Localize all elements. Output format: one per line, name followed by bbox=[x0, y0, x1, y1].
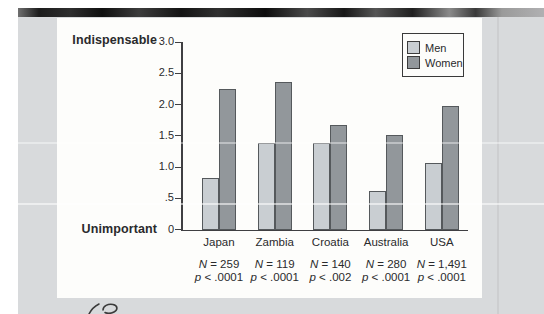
bar-men bbox=[425, 163, 442, 230]
bar-men bbox=[258, 143, 275, 230]
legend-item: Women bbox=[407, 56, 459, 69]
legend: MenWomen bbox=[402, 33, 464, 77]
bar-women bbox=[330, 125, 347, 229]
bar-men bbox=[313, 143, 330, 230]
y-tick-mark bbox=[175, 229, 181, 230]
x-axis-line bbox=[181, 230, 468, 232]
y-tick-mark bbox=[175, 42, 181, 43]
y-tick-label: 1.0 bbox=[57, 160, 174, 172]
y-tick-mark bbox=[175, 198, 181, 199]
legend-label: Women bbox=[425, 57, 463, 69]
legend-label: Men bbox=[425, 42, 446, 54]
y-tick-mark bbox=[175, 104, 181, 105]
bar-women bbox=[442, 106, 459, 229]
y-tick-label: 2.0 bbox=[57, 98, 174, 110]
handwritten-mark bbox=[84, 303, 126, 314]
legend-swatch bbox=[407, 41, 420, 54]
n-annotation: N = 1,491 bbox=[400, 258, 484, 270]
y-tick-label: .5 bbox=[57, 191, 174, 203]
y-tick-mark bbox=[175, 135, 181, 136]
bar-men bbox=[369, 191, 386, 229]
y-axis-line bbox=[181, 42, 183, 230]
y-tick-mark bbox=[175, 167, 181, 168]
bar-women bbox=[386, 135, 403, 230]
p-annotation: p < .0001 bbox=[400, 271, 484, 283]
y-tick-label: 3.0 bbox=[57, 35, 174, 47]
bar-women bbox=[275, 82, 292, 230]
legend-swatch bbox=[407, 56, 420, 69]
bar-men bbox=[202, 178, 219, 230]
legend-item: Men bbox=[407, 41, 459, 54]
figure-panel: Indispensable Unimportant MenWomen 3.02.… bbox=[57, 18, 482, 298]
y-tick-label: 2.5 bbox=[57, 66, 174, 78]
y-tick-label: 1.5 bbox=[57, 129, 174, 141]
y-tick-label: 0 bbox=[57, 223, 174, 235]
y-tick-mark bbox=[175, 73, 181, 74]
page-crease bbox=[497, 17, 499, 314]
bar-women bbox=[219, 89, 236, 230]
category-label: USA bbox=[400, 236, 484, 248]
